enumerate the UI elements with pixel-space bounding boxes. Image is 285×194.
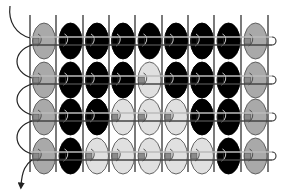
bead-hole — [139, 77, 145, 83]
bead-hole — [33, 114, 39, 120]
bead-hole — [218, 77, 224, 83]
bead-hole — [191, 153, 197, 159]
bead-hole — [60, 114, 66, 120]
bead-hole — [191, 114, 197, 120]
bead-hole — [245, 114, 251, 120]
right-turn-loop — [272, 76, 276, 84]
bead-hole — [60, 77, 66, 83]
bead-hole — [112, 153, 118, 159]
bead-hole — [245, 38, 251, 44]
bead-hole — [112, 114, 118, 120]
bead-hole — [165, 38, 171, 44]
bead-hole — [191, 77, 197, 83]
bead-hole — [112, 77, 118, 83]
bead-hole — [165, 153, 171, 159]
bead-loom-diagram — [0, 0, 285, 194]
bead-hole — [165, 114, 171, 120]
right-turn-loop — [272, 152, 276, 160]
bead-hole — [218, 114, 224, 120]
bead-hole — [86, 77, 92, 83]
bead-hole — [139, 153, 145, 159]
thread-entry-arrow-icon — [10, 6, 30, 38]
bead-hole — [112, 38, 118, 44]
right-turn-loop — [272, 113, 276, 121]
bead-hole — [33, 38, 39, 44]
bead-hole — [165, 77, 171, 83]
bead-hole — [139, 114, 145, 120]
bead-hole — [245, 77, 251, 83]
bead-hole — [33, 77, 39, 83]
bead-hole — [86, 114, 92, 120]
bead-hole — [139, 38, 145, 44]
bead-hole — [245, 153, 251, 159]
bead-hole — [191, 38, 197, 44]
bead-hole — [33, 153, 39, 159]
bead-hole — [60, 38, 66, 44]
bead-hole — [86, 38, 92, 44]
bead-hole — [218, 153, 224, 159]
bead-hole — [86, 153, 92, 159]
right-turn-loop — [272, 37, 276, 45]
bead-hole — [60, 153, 66, 159]
bead-hole — [218, 38, 224, 44]
